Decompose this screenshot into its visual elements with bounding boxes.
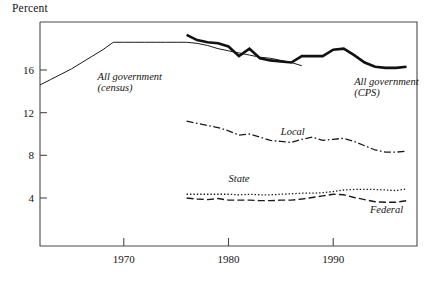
y-tick-label-8: 8	[29, 149, 35, 161]
plot-frame	[40, 22, 417, 246]
series-line-all-government-census	[40, 42, 302, 85]
label-state: State	[229, 173, 250, 184]
y-axis-ticks: 481216	[23, 64, 47, 204]
series-annotations-group: All government(census)All government(CPS…	[97, 71, 420, 215]
series-line-federal	[187, 194, 407, 202]
series-line-all-government-cps	[187, 35, 407, 68]
x-tick-label-1980: 1980	[218, 253, 241, 265]
plot-border	[40, 22, 417, 246]
x-axis-ticks: 197019801990	[113, 238, 345, 265]
chart-container: Percent 481216 197019801990 All governme…	[0, 0, 428, 283]
y-tick-label-4: 4	[29, 192, 35, 204]
label-all-government-census: All government	[97, 71, 164, 82]
data-series-group	[40, 35, 407, 202]
y-tick-label-12: 12	[23, 107, 34, 119]
series-line-state	[187, 189, 407, 195]
label-all-government-cps: All government	[353, 76, 420, 87]
y-tick-label-16: 16	[23, 64, 35, 76]
label-local: Local	[280, 126, 305, 137]
label-all-government-cps-sub: (CPS)	[354, 87, 380, 99]
label-all-government-census-sub: (census)	[98, 82, 133, 94]
x-tick-label-1970: 1970	[113, 253, 136, 265]
chart-plot-area: 481216 197019801990 All government(censu…	[0, 0, 428, 283]
label-federal: Federal	[369, 204, 403, 215]
x-tick-label-1990: 1990	[322, 253, 345, 265]
